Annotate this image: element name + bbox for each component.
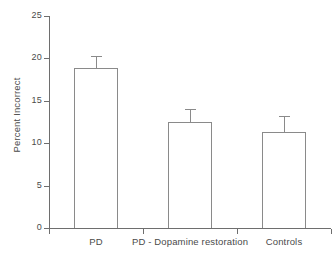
- x-axis-tick-mark: [143, 229, 144, 234]
- y-axis-tick-label: 5: [18, 181, 42, 190]
- y-axis-tick-label: 10: [18, 138, 42, 147]
- x-axis-tick-label: PD: [89, 236, 103, 247]
- error-bar-cap: [91, 56, 102, 57]
- bar-chart-figure: Percent Incorrect 0510152025 PDPD - Dopa…: [0, 0, 333, 258]
- error-bar-cap: [279, 116, 290, 117]
- error-bar-stem: [190, 109, 191, 122]
- y-axis-tick-mark: [44, 101, 49, 102]
- x-axis-tick-mark: [237, 229, 238, 234]
- y-axis-tick-mark: [44, 143, 49, 144]
- y-axis-tick-label: 15: [18, 96, 42, 105]
- error-bar-stem: [96, 56, 97, 68]
- error-bar-cap: [185, 109, 196, 110]
- y-axis-tick-label: 20: [18, 53, 42, 62]
- y-axis-tick-mark: [44, 186, 49, 187]
- y-axis-tick-label: 0: [18, 223, 42, 232]
- y-axis-tick-mark: [44, 16, 49, 17]
- x-axis-line: [49, 228, 331, 229]
- error-bar-stem: [284, 116, 285, 132]
- y-axis-title: Percent Incorrect: [12, 55, 22, 175]
- x-axis-tick-mark: [331, 229, 332, 234]
- x-axis-tick-label: PD - Dopamine restoration: [132, 236, 248, 247]
- bar: [262, 132, 306, 228]
- y-axis-tick-label: 25: [18, 11, 42, 20]
- bar: [168, 122, 212, 228]
- x-axis-tick-mark: [49, 229, 50, 234]
- x-axis-tick-label: Controls: [266, 236, 303, 247]
- bar: [74, 68, 118, 228]
- y-axis-tick-mark: [44, 58, 49, 59]
- y-axis-line: [49, 16, 50, 229]
